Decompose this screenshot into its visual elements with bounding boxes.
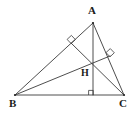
vertex-dot-A <box>92 22 94 24</box>
altitudes <box>15 23 124 95</box>
right-angle-on-AB-mark <box>67 35 75 43</box>
geometry-canvas <box>0 0 137 116</box>
vertex-dot-C <box>123 94 125 96</box>
vertex-label-a: A <box>88 5 96 16</box>
geometry-figure: A B C H <box>0 0 137 116</box>
altitude-from-B-line <box>15 56 110 95</box>
side-AB-line <box>15 23 93 95</box>
side-CA-line <box>93 23 124 95</box>
triangle-sides <box>15 23 124 95</box>
vertex-label-c: C <box>119 98 127 109</box>
right-angle-on-BC-mark <box>89 90 94 95</box>
vertex-dot-B <box>14 94 16 96</box>
right-angle-marks <box>67 35 114 95</box>
orthocenter-label-h: H <box>81 68 89 78</box>
vertex-label-b: B <box>9 98 16 109</box>
